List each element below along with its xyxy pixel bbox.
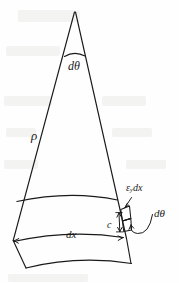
band-top-arc	[17, 195, 118, 201]
dtheta-curved-arrow	[129, 215, 153, 234]
strain-dx: dx	[133, 182, 142, 193]
radius-label: ρ	[31, 129, 37, 142]
wedge-left-edge	[13, 12, 74, 241]
element-length-label: dx	[66, 229, 76, 240]
strain-elongation-label: εydx	[126, 183, 142, 194]
detail-element-divider	[122, 219, 130, 222]
dx-arrowhead-right	[118, 236, 123, 241]
detail-angle-label: dθ	[154, 208, 165, 219]
wedge-right-edge	[76, 12, 127, 239]
bottom-band-right-edge	[127, 239, 132, 264]
apex-angle-arc	[65, 53, 86, 56]
distance-c-label: c	[107, 220, 111, 230]
bottom-arc	[26, 260, 132, 268]
apex-angle-label: dθ	[68, 60, 80, 72]
bottom-band-left-edge	[13, 241, 26, 269]
figure-container: dθ ρ εydx dθ c dx	[0, 0, 179, 283]
wedge-diagram-svg	[0, 0, 179, 283]
